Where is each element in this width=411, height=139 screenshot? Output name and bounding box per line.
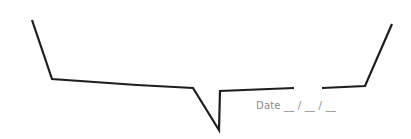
bubble-outline-right-segment: [322, 24, 392, 88]
bubble-outline-left-segment: [32, 20, 294, 130]
date-field-label: Date __ / __ / __: [256, 100, 336, 111]
speech-bubble-outline: [0, 0, 411, 139]
